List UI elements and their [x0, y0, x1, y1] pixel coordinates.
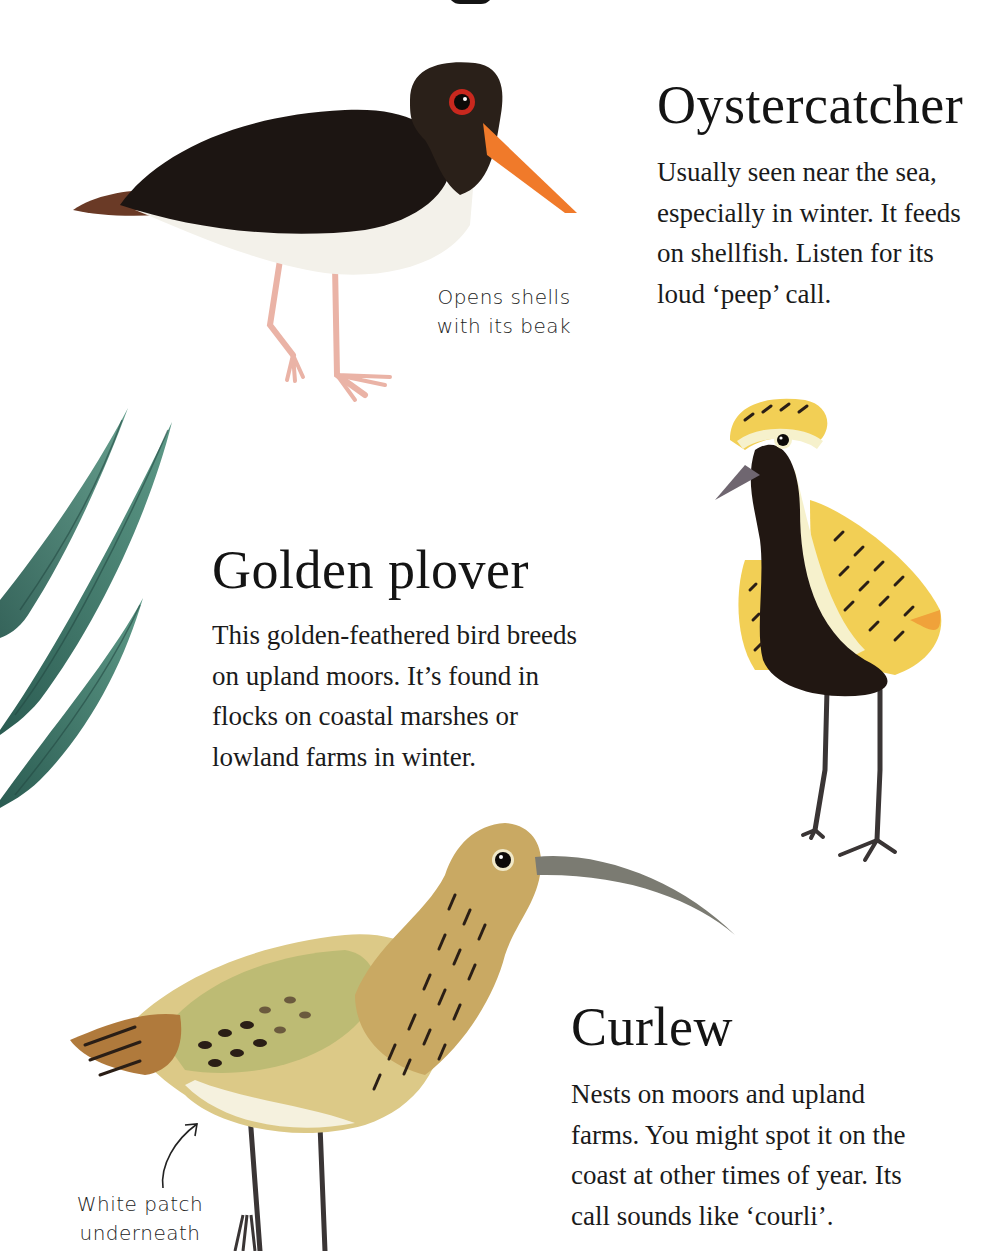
- description-line: flocks on coastal marshes or: [212, 696, 632, 737]
- description-line: on upland moors. It’s found in: [212, 656, 632, 697]
- curlew-annotation: White patch underneath: [65, 1190, 215, 1248]
- oystercatcher-annotation: Opens shells with its beak: [424, 283, 584, 341]
- annotation-line: underneath: [65, 1219, 215, 1248]
- annotation-line: White patch: [65, 1190, 215, 1219]
- golden-plover-title: Golden plover: [212, 535, 529, 605]
- grass-leaves-illustration: [0, 400, 200, 820]
- curlew-description: Nests on moors and upland farms. You mig…: [571, 1074, 1001, 1236]
- description-line: Nests on moors and upland: [571, 1074, 1001, 1115]
- golden-plover-illustration: [715, 390, 955, 870]
- cropped-heading-fragment: [448, 0, 493, 4]
- description-line: This golden-feathered bird breeds: [212, 615, 632, 656]
- annotation-line: with its beak: [424, 312, 584, 341]
- description-line: Usually seen near the sea,: [657, 152, 1002, 193]
- golden-plover-description: This golden-feathered bird breeds on upl…: [212, 615, 632, 777]
- annotation-line: Opens shells: [424, 283, 584, 312]
- curlew-title: Curlew: [571, 992, 733, 1062]
- description-line: lowland farms in winter.: [212, 737, 632, 778]
- description-line: on shellfish. Listen for its: [657, 233, 1002, 274]
- oystercatcher-illustration: [65, 55, 585, 405]
- description-line: farms. You might spot it on the: [571, 1115, 1001, 1156]
- oystercatcher-description: Usually seen near the sea, especially in…: [657, 152, 1002, 314]
- description-line: especially in winter. It feeds: [657, 193, 1002, 234]
- oystercatcher-title: Oystercatcher: [657, 70, 963, 140]
- description-line: call sounds like ‘courli’.: [571, 1196, 1001, 1237]
- annotation-arrow-icon: [155, 1120, 205, 1190]
- description-line: coast at other times of year. Its: [571, 1155, 1001, 1196]
- description-line: loud ‘peep’ call.: [657, 274, 1002, 315]
